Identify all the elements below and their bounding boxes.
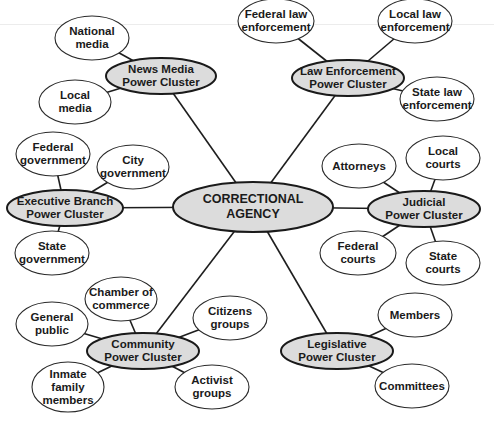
node-state-law (400, 77, 474, 121)
node-federal-gov (16, 132, 90, 176)
node-federal-law (238, 0, 314, 43)
cluster-news (106, 58, 216, 94)
node-members (378, 293, 452, 337)
node-committees (375, 364, 449, 408)
diagram-canvas (0, 0, 494, 421)
node-state-gov (15, 231, 89, 275)
cluster-community (87, 333, 199, 369)
cluster-legislative (281, 333, 393, 369)
nodes (7, 0, 480, 412)
node-local-courts (406, 136, 480, 180)
node-inmate-family (32, 362, 104, 412)
node-general-public (16, 302, 88, 346)
cluster-executive (7, 190, 123, 226)
cluster-judicial (368, 191, 480, 227)
node-federal-courts (320, 231, 396, 275)
node-chamber (85, 277, 157, 321)
node-citizens (193, 296, 267, 340)
node-activist (175, 365, 249, 409)
cluster-law (292, 60, 404, 96)
node-city-gov (97, 145, 169, 189)
node-state-courts (406, 241, 480, 285)
node-national-media (55, 16, 129, 60)
center-node (173, 182, 333, 232)
node-local-media (39, 80, 111, 124)
node-attorneys (322, 144, 396, 188)
node-local-law (378, 0, 452, 43)
